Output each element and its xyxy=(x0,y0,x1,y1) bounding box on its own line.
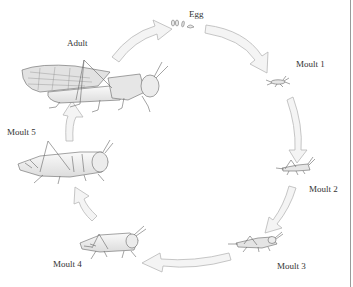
arrow-adult-to-egg xyxy=(112,20,172,62)
adult-grasshopper-illustration xyxy=(22,60,168,112)
page-border-line xyxy=(350,0,351,287)
stage-label-adult: Adult xyxy=(67,38,88,48)
stage-label-egg: Egg xyxy=(189,9,204,19)
arrow-moult1-to-moult2 xyxy=(287,97,307,163)
arrow-moult4-to-moult5 xyxy=(74,187,97,221)
moult1-nymph-illustration xyxy=(266,76,290,87)
arrow-moult5-to-adult xyxy=(63,101,83,141)
diagram-artwork xyxy=(0,0,353,287)
arrow-moult2-to-moult3 xyxy=(265,186,296,233)
stage-label-moult2: Moult 2 xyxy=(309,184,338,194)
moult3-nymph-illustration xyxy=(228,232,283,252)
arrow-egg-to-moult1 xyxy=(205,25,268,73)
stage-label-moult3: Moult 3 xyxy=(277,261,306,271)
stage-label-moult5: Moult 5 xyxy=(7,127,36,137)
life-cycle-diagram: Egg Moult 1 Moult 2 Moult 3 Moult 4 Moul… xyxy=(0,0,353,287)
egg-illustration xyxy=(171,20,194,28)
moult5-nymph-illustration xyxy=(18,140,113,184)
stage-label-moult1: Moult 1 xyxy=(296,59,325,69)
arrow-moult3-to-moult4 xyxy=(142,253,231,272)
moult4-nymph-illustration xyxy=(80,226,146,259)
stage-label-moult4: Moult 4 xyxy=(53,259,82,269)
